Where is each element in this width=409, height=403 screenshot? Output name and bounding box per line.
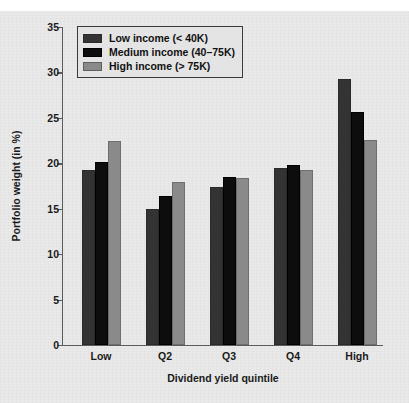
x-tick-label: High	[338, 351, 377, 362]
y-tick-label: 35	[47, 22, 59, 33]
bar	[274, 168, 287, 345]
y-tick-label: 20	[47, 158, 59, 169]
legend-label-high-income: High income (> 75K)	[109, 61, 210, 72]
bar	[300, 170, 313, 345]
chart-legend: Low income (< 40K) Medium income (40–75K…	[77, 26, 243, 78]
y-tick-label: 0	[53, 340, 59, 351]
x-axis-line	[62, 345, 383, 346]
legend-label-medium-income: Medium income (40–75K)	[109, 47, 235, 58]
y-axis-title: Portfolio weight (in %)	[10, 131, 22, 242]
x-tick-label: Q4	[274, 351, 313, 362]
chart-figure: Portfolio weight (in %) Dividend yield q…	[0, 0, 409, 403]
legend-swatch-low-income	[83, 34, 102, 43]
x-tick-label: Q3	[210, 351, 249, 362]
y-tick-label: 15	[47, 203, 59, 214]
legend-swatch-high-income	[83, 62, 102, 71]
y-tick-label: 5	[53, 294, 59, 305]
bar	[172, 182, 185, 345]
y-tick-label: 25	[47, 113, 59, 124]
bar	[159, 196, 172, 345]
legend-item: High income (> 75K)	[83, 59, 235, 73]
bar	[108, 141, 121, 345]
bar	[338, 79, 351, 345]
bar	[95, 162, 108, 345]
legend-item: Low income (< 40K)	[83, 31, 235, 45]
bar	[210, 187, 223, 345]
bar-group	[274, 27, 313, 345]
bar	[236, 178, 249, 345]
x-axis-title: Dividend yield quintile	[63, 372, 383, 384]
x-tick-label: Low	[82, 351, 121, 362]
x-tick-label: Q2	[146, 351, 185, 362]
clipped-caption-sliver	[0, 396, 409, 403]
legend-item: Medium income (40–75K)	[83, 45, 235, 59]
bar	[287, 165, 300, 345]
y-tick-label: 10	[47, 249, 59, 260]
y-axis-line	[62, 27, 63, 345]
bar	[223, 177, 236, 345]
y-tick-label: 30	[47, 67, 59, 78]
bar	[364, 140, 377, 345]
bar	[82, 170, 95, 345]
legend-swatch-medium-income	[83, 48, 102, 57]
bar-group	[338, 27, 377, 345]
bar	[351, 112, 364, 346]
bar	[146, 209, 159, 345]
legend-label-low-income: Low income (< 40K)	[109, 33, 208, 44]
